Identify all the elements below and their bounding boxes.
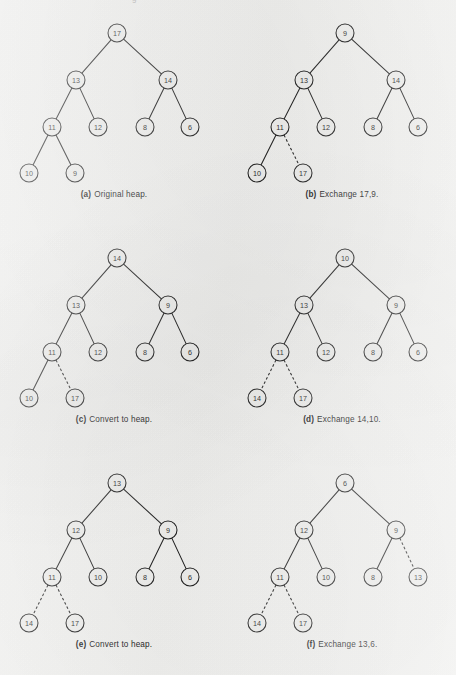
tree-node: 14 [108,249,126,267]
node-label: 13 [113,479,121,488]
node-label: 6 [416,348,420,357]
tree-node: 9 [66,164,84,182]
tree-edge-solid [82,40,111,73]
tree-edge-dashed [261,360,276,390]
tree-node: 9 [387,521,405,539]
tree-node: 10 [20,164,38,182]
tree-node: 11 [43,118,61,136]
tree-node: 11 [43,568,61,586]
tree-node: 12 [89,118,107,136]
tree-edge-solid [124,39,162,74]
node-label: 9 [394,526,398,535]
tree-node: 10 [317,568,335,586]
panel-a: 171314111286109(a)Original heap. [0,0,228,225]
node-label: 17 [71,619,79,628]
tree-node: 13 [295,71,313,89]
tree-edge-dashed [284,585,299,615]
tree-edge-solid [80,538,94,569]
caption-tag: (f) [307,640,316,649]
node-label: 8 [371,123,375,132]
tree-edge-solid [56,538,72,569]
node-label: 12 [322,123,330,132]
caption-tag: (a) [81,190,91,199]
tree-node: 13 [295,296,313,314]
node-label: 11 [48,123,55,132]
node-label: 13 [300,301,308,310]
tree-edge-solid [284,538,300,569]
panel-f: 612911108131417(f)Exchange 13,6. [228,450,456,675]
tree-node: 8 [364,343,382,361]
caption-text: Convert to heap. [89,415,152,424]
tree-node: 8 [364,118,382,136]
node-label: 13 [72,301,80,310]
tree-node: 11 [43,343,61,361]
node-label: 14 [253,619,261,628]
tree-node: 17 [108,24,126,42]
caption-text: Convert to heap. [89,640,152,649]
tree-edge-solid [172,88,186,119]
panel-d-caption: (d)Exchange 14,10. [228,415,456,424]
tree-edge-solid [149,538,164,569]
panel-c: 141391112861017(c)Convert to heap. [0,225,228,450]
tree-edge-solid [124,264,162,299]
node-label: 8 [143,573,147,582]
tree-edge-solid [33,135,48,165]
node-label: 9 [73,169,77,178]
node-label: 6 [188,573,192,582]
tree-edge-solid [352,39,390,74]
node-label: 6 [343,479,347,488]
node-label: 12 [94,123,102,132]
caption-text: Exchange 13,6. [318,640,377,649]
tree-edge-solid [261,135,276,165]
tree-node: 13 [409,568,427,586]
tree-edge-solid [377,88,392,119]
node-label: 12 [94,348,102,357]
node-label: 11 [48,348,55,357]
panel-a-caption: (a)Original heap. [0,190,228,199]
panel-a-tree: 171314111286109 [0,0,228,200]
tree-node: 17 [294,614,312,632]
tree-edge-solid [80,88,94,119]
tree-edge-solid [149,88,164,119]
tree-node: 14 [20,614,38,632]
node-label: 10 [25,394,33,403]
tree-edge-solid [284,88,300,119]
panel-f-tree: 612911108131417 [228,450,456,650]
node-label: 14 [164,76,172,85]
tree-node: 12 [317,118,335,136]
tree-edge-solid [308,313,322,344]
cropped-text-artifact: g [132,0,146,4]
tree-edge-solid [284,313,300,344]
tree-node: 11 [271,118,289,136]
tree-node: 17 [66,614,84,632]
tree-edge-dashed [284,135,299,165]
tree-node: 6 [336,474,354,492]
caption-tag: (c) [76,415,86,424]
tree-edge-solid [56,88,72,119]
tree-node: 9 [159,521,177,539]
panel-d: 101391112861417(d)Exchange 14,10. [228,225,456,450]
node-label: 12 [322,348,330,357]
panel-b-caption: (b)Exchange 17,9. [228,190,456,199]
tree-edge-dashed [261,585,276,615]
tree-edge-solid [33,360,48,390]
node-label: 6 [188,348,192,357]
node-label: 11 [276,348,283,357]
tree-node: 10 [89,568,107,586]
panel-e: 131291110861417(e)Convert to heap. [0,450,228,675]
node-label: 14 [25,619,33,628]
tree-edge-solid [82,265,111,298]
node-label: 17 [299,169,307,178]
node-label: 14 [113,254,121,263]
node-label: 12 [72,526,80,535]
node-label: 8 [143,123,147,132]
tree-edge-solid [352,489,390,524]
caption-text: Exchange 14,10. [317,415,381,424]
tree-edge-solid [400,88,414,119]
tree-node: 17 [66,389,84,407]
tree-node: 6 [181,343,199,361]
tree-node: 13 [108,474,126,492]
node-label: 10 [322,573,330,582]
tree-edge-dashed [400,538,414,569]
node-label: 9 [166,301,170,310]
